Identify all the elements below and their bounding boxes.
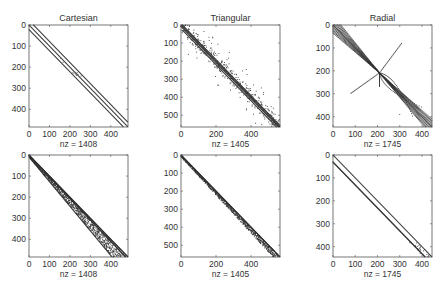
spy-point [340, 31, 341, 32]
spy-point [263, 94, 264, 95]
spy-point [375, 69, 376, 70]
spy-point [411, 111, 412, 112]
spy-point [229, 74, 230, 75]
spy-point [424, 116, 425, 117]
spy-point [97, 231, 98, 232]
spy-point [404, 98, 405, 99]
spy-point [396, 50, 397, 51]
spy-point [209, 52, 210, 53]
x-tick-label: 200 [209, 129, 223, 139]
spy-point [65, 197, 66, 198]
spy-point [412, 110, 413, 111]
spy-point [248, 90, 249, 91]
spy-point [424, 256, 425, 257]
spy-point [422, 122, 423, 123]
spy-point [416, 116, 417, 117]
spy-point [70, 200, 71, 201]
spy-point [218, 85, 219, 86]
spy-point [417, 113, 418, 114]
spy-point [89, 227, 90, 228]
spy-point [112, 247, 113, 248]
spy-point [234, 85, 235, 86]
spy-point [203, 31, 204, 32]
spy-point [187, 32, 188, 33]
spy-point [97, 237, 98, 238]
spy-point [358, 48, 359, 49]
spy-point [362, 58, 363, 59]
spy-point [76, 211, 77, 212]
spy-point [255, 106, 256, 107]
spy-point [411, 107, 412, 108]
spy-point [426, 115, 427, 116]
spy-point [116, 252, 117, 253]
spy-point [237, 79, 238, 80]
spy-point [263, 92, 264, 93]
spy-point [102, 239, 103, 240]
spy-point [338, 29, 339, 30]
spy-point [246, 109, 247, 110]
spy-point [204, 52, 205, 53]
spy-point [113, 245, 114, 246]
spy-point [341, 39, 342, 40]
spy-point [351, 42, 352, 43]
spy-point [106, 238, 107, 239]
spy-point [355, 46, 356, 47]
spy-point [199, 49, 200, 50]
spy-point [348, 44, 349, 45]
spy-point [341, 36, 342, 37]
spy-point [341, 29, 342, 30]
spy-point [258, 240, 259, 241]
spy-point [414, 113, 415, 114]
spy-point [104, 237, 105, 238]
spy-point [424, 113, 425, 114]
y-tick-label: 300 [164, 204, 178, 214]
spy-point [236, 74, 237, 75]
x-tick-label: 100 [348, 129, 362, 139]
spy-point [338, 31, 339, 32]
spy-point [426, 124, 427, 125]
spy-point [230, 82, 231, 83]
spy-point [409, 108, 410, 109]
spy-point [221, 200, 222, 201]
spy-point [348, 36, 349, 37]
spy-point [103, 235, 104, 236]
spy-point [405, 100, 406, 101]
spy-point [334, 33, 335, 34]
spy-point [424, 125, 425, 126]
spy-point [333, 29, 334, 30]
spy-point [340, 27, 341, 28]
spy-point [64, 194, 65, 195]
spy-point [422, 119, 423, 120]
spy-point [392, 55, 393, 56]
spy-point [99, 233, 100, 234]
spy-point [415, 112, 416, 113]
spy-point [385, 64, 386, 65]
spy-point [277, 124, 278, 125]
spy-point [398, 88, 399, 89]
spy-point [415, 108, 416, 109]
spy-point [429, 123, 430, 124]
spy-point [351, 43, 352, 44]
spy-point [356, 89, 357, 90]
spy-point [65, 62, 66, 63]
spy-point [241, 86, 242, 87]
spy-point [413, 103, 414, 104]
spy-point [345, 32, 346, 33]
spy-point [104, 236, 105, 237]
spy-point [350, 45, 351, 46]
spy-point [222, 68, 223, 69]
spy-point [249, 101, 250, 102]
spy-point [341, 34, 342, 35]
spy-point [352, 41, 353, 42]
spy-point [428, 126, 429, 127]
spy-point [242, 71, 243, 72]
spy-point [103, 243, 104, 244]
spy-point [350, 39, 351, 40]
spy-point [342, 26, 343, 27]
spy-point [381, 78, 382, 79]
spy-point [354, 43, 355, 44]
y-tick-label: 200 [164, 56, 178, 66]
spy-point [372, 66, 373, 67]
spy-point [428, 122, 429, 123]
spy-point [210, 58, 211, 59]
